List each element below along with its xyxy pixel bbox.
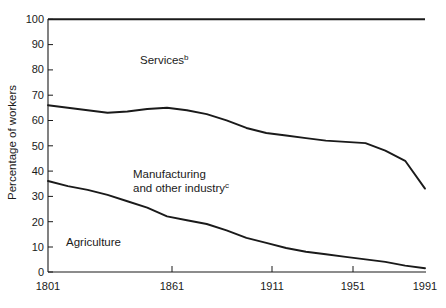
x-axis-tick-labels: 1801 1861 1911 1951 1991 — [36, 280, 437, 292]
band-label-manufacturing-line2: and other industryc — [133, 181, 229, 194]
band-label-agriculture-text: Agriculture — [66, 236, 121, 248]
y-axis-tick-marks — [48, 19, 53, 272]
y-axis-title: Percentage of workers — [6, 85, 18, 200]
band-label-manufacturing-superscript: c — [225, 181, 229, 190]
y-tick-label-40: 40 — [32, 165, 44, 177]
series-line-agriculture-boundary — [48, 181, 425, 268]
y-tick-label-90: 90 — [32, 38, 44, 50]
y-tick-label-20: 20 — [32, 216, 44, 228]
y-tick-label-80: 80 — [32, 63, 44, 75]
x-tick-label-1861: 1861 — [160, 280, 184, 292]
x-axis-tick-marks — [172, 266, 353, 272]
x-tick-label-1911: 1911 — [260, 280, 284, 292]
x-tick-label-1991: 1991 — [413, 280, 437, 292]
series-line-services-boundary — [48, 105, 425, 188]
band-label-manufacturing-text: Manufacturing — [133, 168, 206, 180]
y-tick-label-50: 50 — [32, 140, 44, 152]
y-axis-tick-labels: 100 90 80 70 60 50 40 30 20 10 0 — [26, 13, 44, 278]
band-label-agriculture: Agriculture — [66, 236, 121, 248]
band-label-manufacturing-text2: and other industry — [133, 182, 225, 194]
y-tick-label-70: 70 — [32, 89, 44, 101]
y-tick-label-10: 10 — [32, 241, 44, 253]
workforce-composition-chart: Percentage of workers 100 90 80 70 60 50… — [0, 0, 446, 308]
band-label-services-text: Services — [140, 54, 184, 66]
x-tick-label-1951: 1951 — [341, 280, 365, 292]
y-tick-label-30: 30 — [32, 190, 44, 202]
x-tick-label-1801: 1801 — [36, 280, 60, 292]
y-tick-label-100: 100 — [26, 13, 44, 25]
band-label-manufacturing-line1: Manufacturing — [133, 168, 206, 180]
band-label-services-superscript: b — [184, 53, 189, 62]
y-tick-label-0: 0 — [38, 266, 44, 278]
band-label-services: Servicesb — [140, 53, 189, 66]
chart-container: Percentage of workers 100 90 80 70 60 50… — [0, 0, 446, 308]
y-tick-label-60: 60 — [32, 114, 44, 126]
